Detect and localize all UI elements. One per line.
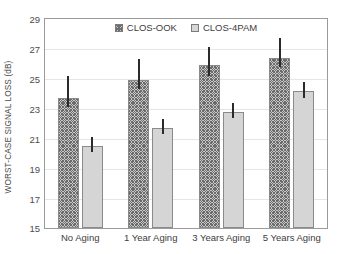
error-bar xyxy=(162,119,164,134)
error-bar xyxy=(232,103,234,118)
x-axis-ticks: No Aging 1 Year Aging 3 Years Aging 5 Ye… xyxy=(45,232,327,243)
bar-clos-4pam-3-years-aging xyxy=(223,112,244,228)
y-tick-label: 27 xyxy=(20,44,40,55)
y-tick-label: 29 xyxy=(20,14,40,25)
bar-clos-4pam-no-aging xyxy=(82,146,103,228)
error-bar xyxy=(279,38,281,66)
bar-clos-ook-5-years-aging xyxy=(269,58,290,228)
bar-clos-ook-1-year-aging xyxy=(128,80,149,228)
y-axis-title: WORST-CASE SIGNAL LOSS (dB) xyxy=(0,0,16,254)
error-bar xyxy=(303,82,305,98)
x-tick-label: 5 Years Aging xyxy=(257,232,328,243)
x-tick-label: No Aging xyxy=(45,232,116,243)
x-tick-label: 3 Years Aging xyxy=(186,232,257,243)
y-tick-label: 17 xyxy=(20,194,40,205)
bar-clos-ook-no-aging xyxy=(58,98,79,228)
y-tick-label: 15 xyxy=(20,223,40,234)
y-tick-label: 19 xyxy=(20,164,40,175)
bar-clos-4pam-1-year-aging xyxy=(152,128,173,228)
y-tick-label: 25 xyxy=(20,74,40,85)
error-bar xyxy=(67,76,69,107)
y-tick-label: 23 xyxy=(20,104,40,115)
bars-layer xyxy=(45,19,327,228)
error-bar xyxy=(91,137,93,152)
error-bar xyxy=(208,47,210,75)
x-tick-label: 1 Year Aging xyxy=(116,232,187,243)
bar-clos-ook-3-years-aging xyxy=(199,65,220,228)
bar-chart: WORST-CASE SIGNAL LOSS (dB) 29 27 25 23 … xyxy=(0,0,343,254)
error-bar xyxy=(138,59,140,89)
y-tick-label: 21 xyxy=(20,134,40,145)
bar-clos-4pam-5-years-aging xyxy=(293,91,314,228)
